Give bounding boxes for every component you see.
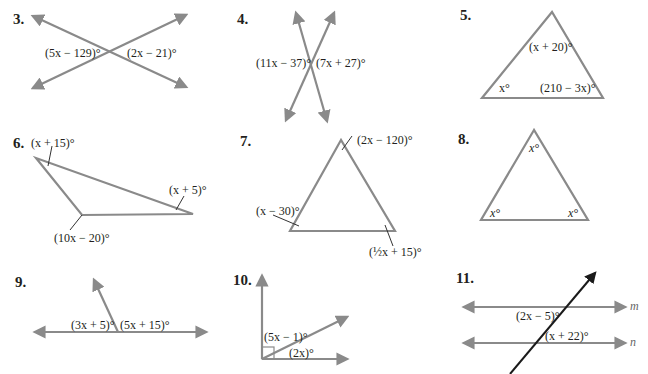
problem-7-number: 7. (240, 133, 251, 150)
line-m-label: m (630, 299, 639, 314)
problem-6-angle-left: (x + 15)° (31, 136, 75, 151)
problem-5-angle-top: (x + 20)° (529, 40, 573, 55)
problem-8-angle-left: x° (490, 206, 500, 221)
problem-4-angle-left: (11x − 37)° (256, 56, 311, 71)
problem-8-angle-top: x° (529, 141, 539, 156)
line-n-label: n (630, 335, 636, 350)
problem-8-number: 8. (458, 131, 469, 148)
figure-7-triangle (273, 136, 395, 246)
problem-11-angle-lower: (x + 22)° (545, 329, 589, 344)
problem-7-angle-left: (x − 30)° (256, 204, 300, 219)
problem-9-angle-left: (3x + 5)° (71, 318, 115, 333)
problem-5-angle-right: (210 − 3x)° (540, 81, 596, 96)
problem-9-number: 9. (15, 274, 26, 291)
problem-11-angle-upper: (2x − 5)° (516, 309, 560, 324)
problem-10-angle-lower: (2x)° (289, 346, 314, 361)
problem-3-angle-right: (2x − 21)° (127, 46, 177, 61)
problem-4-angle-right: (7x + 27)° (316, 56, 366, 71)
problem-9-angle-right: (5x + 15)° (120, 318, 170, 333)
problem-6-number: 6. (13, 135, 24, 152)
problem-11-number: 11. (456, 270, 474, 287)
problem-5-number: 5. (460, 7, 471, 24)
problem-6-angle-right: (x + 5)° (169, 183, 207, 198)
problem-8-angle-right: x° (568, 206, 578, 221)
problem-6-angle-bottom: (10x − 20)° (54, 231, 110, 246)
problem-7-angle-right: (½x + 15)° (369, 245, 422, 260)
problem-4-number: 4. (237, 11, 248, 28)
problem-3-number: 3. (13, 11, 24, 28)
problem-7-angle-top: (2x − 120)° (357, 133, 413, 148)
problem-5-angle-left: x° (499, 81, 510, 96)
problem-3-angle-left: (5x − 129)° (45, 46, 101, 61)
problem-10-number: 10. (233, 272, 252, 289)
problem-10-angle-upper: (5x − 1)° (264, 330, 308, 345)
